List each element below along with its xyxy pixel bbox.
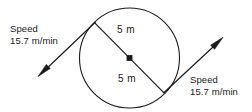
speed-label-right-line1: Speed xyxy=(190,74,238,86)
radius-label-upper: 5 m xyxy=(117,24,135,36)
speed-label-right-line2: 15.7 m/min xyxy=(190,86,238,98)
speed-label-left-line2: 15.7 m/min xyxy=(10,35,58,47)
speed-arrow-left-head xyxy=(38,64,50,76)
speed-arrow-right-head xyxy=(211,37,223,49)
speed-label-left: Speed 15.7 m/min xyxy=(10,23,58,46)
circle-center-marker xyxy=(127,55,133,61)
radius-label-lower: 5 m xyxy=(118,73,136,85)
diagram-canvas: Speed 15.7 m/min Speed 15.7 m/min 5 m 5 … xyxy=(0,0,252,112)
speed-label-left-line1: Speed xyxy=(10,23,58,35)
speed-label-right: Speed 15.7 m/min xyxy=(190,74,238,97)
